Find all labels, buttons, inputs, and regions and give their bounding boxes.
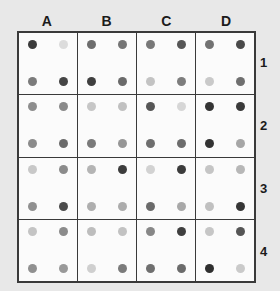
dot-bottom-left <box>205 77 214 86</box>
dot-bottom-right <box>59 264 68 273</box>
dot-top-left <box>205 102 214 111</box>
dot-top-right <box>59 102 68 111</box>
dot-matrix-grid-page: ABCD 1234 <box>0 0 280 291</box>
dot-top-right <box>236 227 245 236</box>
grid-cell-c3[interactable] <box>137 158 195 219</box>
dot-bottom-right <box>118 139 127 148</box>
dot-top-left <box>146 40 155 49</box>
grid-cell-a2[interactable] <box>19 95 77 156</box>
grid-cell-a4[interactable] <box>19 220 77 281</box>
dot-top-left <box>28 102 37 111</box>
dot-grid <box>17 31 256 283</box>
dot-top-left <box>205 227 214 236</box>
dot-bottom-left <box>146 77 155 86</box>
dot-bottom-left <box>146 139 155 148</box>
grid-cell-d2[interactable] <box>196 95 254 156</box>
column-header-row: ABCD <box>17 12 256 31</box>
dot-bottom-left <box>28 264 37 273</box>
grid-cell-c4[interactable] <box>137 220 195 281</box>
column-header-b: B <box>77 12 137 31</box>
dot-bottom-right <box>236 77 245 86</box>
dot-bottom-right <box>118 202 127 211</box>
dot-bottom-left <box>205 264 214 273</box>
dot-bottom-left <box>87 202 96 211</box>
dot-bottom-right <box>59 77 68 86</box>
dot-top-right <box>118 102 127 111</box>
dot-top-right <box>118 165 127 174</box>
column-header-c: C <box>137 12 197 31</box>
dot-top-left <box>87 227 96 236</box>
dot-bottom-left <box>87 264 96 273</box>
grid-cell-a1[interactable] <box>19 33 77 94</box>
dot-bottom-left <box>87 77 96 86</box>
dot-top-left <box>146 102 155 111</box>
grid-cell-d3[interactable] <box>196 158 254 219</box>
dot-top-right <box>236 40 245 49</box>
grid-cell-c2[interactable] <box>137 95 195 156</box>
dot-top-right <box>236 102 245 111</box>
dot-top-left <box>87 40 96 49</box>
dot-top-right <box>236 165 245 174</box>
grid-cell-d1[interactable] <box>196 33 254 94</box>
dot-top-right <box>177 40 186 49</box>
column-header-d: D <box>196 12 256 31</box>
dot-top-left <box>87 102 96 111</box>
dot-top-right <box>118 227 127 236</box>
dot-top-left <box>146 165 155 174</box>
dot-top-right <box>59 40 68 49</box>
dot-top-right <box>177 102 186 111</box>
grid-cell-c1[interactable] <box>137 33 195 94</box>
dot-bottom-left <box>146 264 155 273</box>
dot-bottom-right <box>177 202 186 211</box>
dot-bottom-right <box>177 77 186 86</box>
row-header-4: 4 <box>258 220 278 283</box>
dot-top-left <box>205 40 214 49</box>
dot-bottom-left <box>205 202 214 211</box>
dot-bottom-right <box>236 139 245 148</box>
grid-cell-a3[interactable] <box>19 158 77 219</box>
dot-bottom-right <box>177 264 186 273</box>
dot-top-right <box>177 227 186 236</box>
grid-cell-b1[interactable] <box>78 33 136 94</box>
dot-top-left <box>205 165 214 174</box>
dot-top-left <box>28 40 37 49</box>
row-header-3: 3 <box>258 157 278 220</box>
row-header-2: 2 <box>258 94 278 157</box>
dot-top-right <box>59 227 68 236</box>
dot-top-right <box>59 165 68 174</box>
column-header-a: A <box>17 12 77 31</box>
grid-cell-d4[interactable] <box>196 220 254 281</box>
grid-cell-b2[interactable] <box>78 95 136 156</box>
row-header-1: 1 <box>258 31 278 94</box>
dot-bottom-left <box>28 202 37 211</box>
dot-top-left <box>28 227 37 236</box>
row-header-column: 1234 <box>258 31 278 283</box>
dot-top-left <box>28 165 37 174</box>
dot-bottom-left <box>28 139 37 148</box>
dot-bottom-right <box>236 264 245 273</box>
dot-bottom-right <box>177 139 186 148</box>
grid-cell-b4[interactable] <box>78 220 136 281</box>
dot-bottom-left <box>87 139 96 148</box>
dot-bottom-left <box>28 77 37 86</box>
dot-bottom-left <box>205 139 214 148</box>
dot-top-right <box>118 40 127 49</box>
dot-bottom-right <box>118 264 127 273</box>
dot-top-left <box>146 227 155 236</box>
dot-bottom-left <box>146 202 155 211</box>
dot-bottom-right <box>59 202 68 211</box>
dot-bottom-right <box>118 77 127 86</box>
dot-top-left <box>87 165 96 174</box>
dot-bottom-right <box>59 139 68 148</box>
dot-top-right <box>177 165 186 174</box>
grid-cell-b3[interactable] <box>78 158 136 219</box>
dot-bottom-right <box>236 202 245 211</box>
